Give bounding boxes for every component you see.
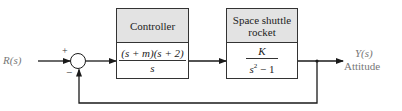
plant-title-line2: rocket [248, 26, 275, 38]
plant-transfer-function: K s2 − 1 [227, 43, 297, 78]
output-label: Y(s) [355, 47, 373, 59]
plant-block: Space shuttle rocket K s2 − 1 [226, 8, 298, 79]
controller-transfer-function: (s + m)(s + 2) s [117, 43, 188, 78]
summing-junction [71, 54, 86, 69]
plant-den-rest: − 1 [257, 63, 274, 75]
plant-numerator: K [246, 45, 277, 59]
output-sublabel: Attitude [344, 60, 380, 72]
input-label: R(s) [3, 54, 21, 66]
controller-title: Controller [117, 9, 188, 43]
diagram-connections [0, 0, 402, 111]
controller-denominator: s [150, 61, 154, 75]
controller-numerator: (s + m)(s + 2) [119, 47, 186, 61]
plus-sign: + [62, 45, 68, 56]
controller-block: Controller (s + m)(s + 2) s [116, 8, 189, 79]
plant-title-line1: Space shuttle [233, 14, 291, 26]
plant-denominator: s2 − 1 [250, 59, 275, 76]
plant-title: Space shuttle rocket [227, 9, 297, 43]
minus-sign: − [66, 66, 72, 78]
